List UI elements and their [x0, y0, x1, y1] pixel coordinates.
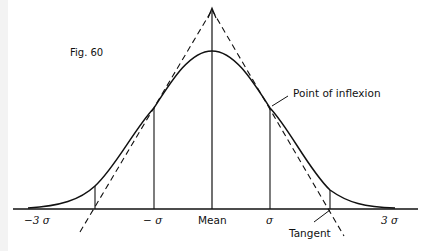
left-tangent-dashed — [80, 10, 212, 232]
tangent-leader — [314, 210, 330, 222]
label-plus-sigma: σ — [266, 215, 273, 226]
inflexion-label: Point of inflexion — [293, 88, 381, 99]
inflexion-leader — [272, 96, 288, 106]
right-tangent-dashed — [212, 10, 344, 236]
label-mean: Mean — [198, 215, 227, 226]
label-minus-3-sigma: −3 σ — [24, 215, 50, 226]
tangent-label: Tangent — [289, 228, 331, 239]
figure-title: Fig. 60 — [70, 48, 103, 58]
label-minus-sigma: − σ — [143, 215, 162, 226]
label-plus-3-sigma: 3 σ — [381, 215, 398, 226]
